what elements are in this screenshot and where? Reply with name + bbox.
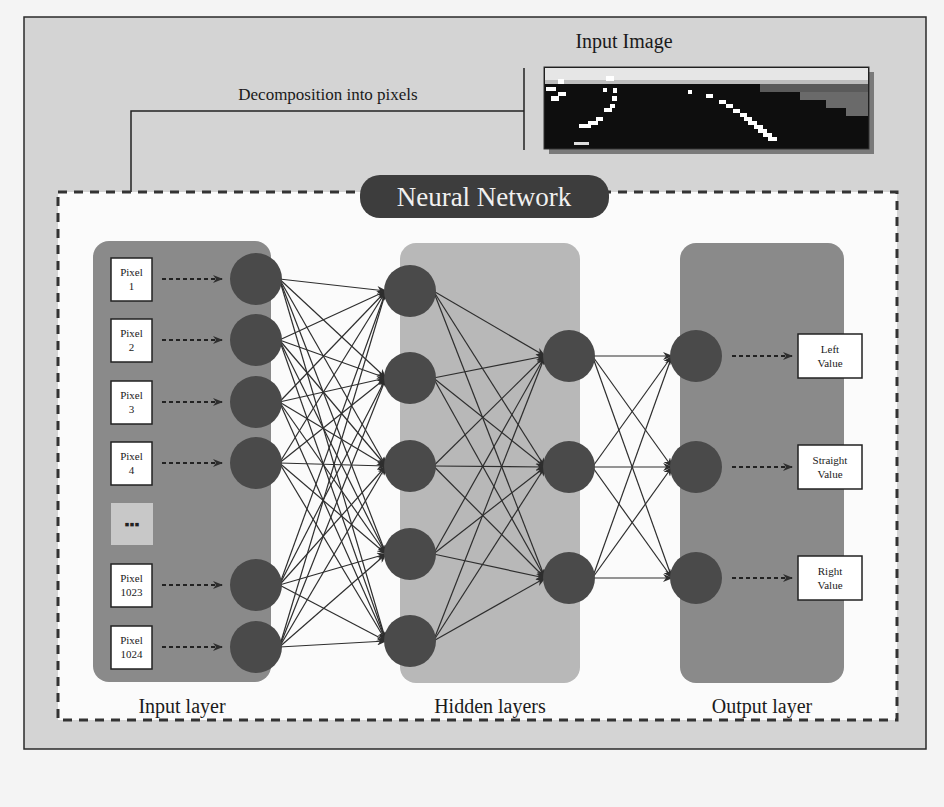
ellipsis-icon: ▪▪▪ <box>125 517 140 532</box>
svg-text:Value: Value <box>817 357 842 369</box>
svg-text:Pixel: Pixel <box>120 450 143 462</box>
output-neuron <box>670 441 722 493</box>
hidden-layers-label: Hidden layers <box>434 695 546 718</box>
input-image-label: Input Image <box>575 30 672 53</box>
decomposition-label: Decomposition into pixels <box>238 85 417 104</box>
svg-text:4: 4 <box>129 464 135 476</box>
svg-text:Pixel: Pixel <box>120 327 143 339</box>
svg-text:Straight: Straight <box>813 454 848 466</box>
input-image <box>544 67 874 154</box>
hidden2-neuron <box>543 552 595 604</box>
svg-text:3: 3 <box>129 403 135 415</box>
input-neuron <box>230 437 282 489</box>
svg-text:1023: 1023 <box>121 586 144 598</box>
hidden2-neuron <box>543 441 595 493</box>
input-neuron <box>230 253 282 305</box>
svg-text:Pixel: Pixel <box>120 572 143 584</box>
hidden1-neuron <box>384 528 436 580</box>
hidden1-neuron <box>384 440 436 492</box>
hidden1-neuron <box>384 615 436 667</box>
svg-text:Pixel: Pixel <box>120 389 143 401</box>
svg-text:Right: Right <box>818 565 842 577</box>
svg-text:Pixel: Pixel <box>120 634 143 646</box>
output-neuron <box>670 552 722 604</box>
hidden1-neuron <box>384 352 436 404</box>
neural-network-diagram: Input Image <box>0 0 944 807</box>
svg-text:Value: Value <box>817 579 842 591</box>
svg-text:Value: Value <box>817 468 842 480</box>
output-layer-label: Output layer <box>712 695 813 718</box>
hidden1-neuron <box>384 265 436 317</box>
svg-text:Pixel: Pixel <box>120 266 143 278</box>
svg-text:1: 1 <box>129 280 135 292</box>
input-layer-label: Input layer <box>138 695 226 718</box>
input-neuron <box>230 376 282 428</box>
input-neuron <box>230 314 282 366</box>
neural-network-title: Neural Network <box>397 182 572 212</box>
output-neuron <box>670 330 722 382</box>
svg-text:2: 2 <box>129 341 135 353</box>
ellipsis-box: ▪▪▪ <box>111 503 153 545</box>
input-neuron <box>230 559 282 611</box>
svg-text:Left: Left <box>821 343 839 355</box>
neural-network-title-pill: Neural Network <box>360 175 609 218</box>
svg-text:1024: 1024 <box>121 648 144 660</box>
input-neuron <box>230 621 282 673</box>
hidden2-neuron <box>543 330 595 382</box>
